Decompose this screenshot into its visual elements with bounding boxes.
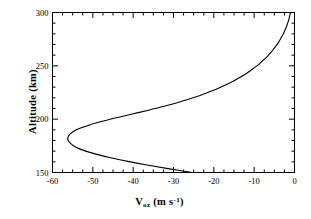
figure-chart-voz-altitude: -60-50-40-30-20-100 150200250300 Altitud… [0,0,311,219]
x-axis-tick-labels: -60-50-40-30-20-100 [47,176,297,186]
x-axis-label: Voz (m s-1) [0,196,311,209]
y-axis-major-ticks [53,13,295,173]
x-tick-label: -50 [87,176,98,186]
x-tick-label: -40 [127,176,138,186]
x-tick-label: -60 [47,176,58,186]
y-axis-minor-ticks [53,23,295,162]
x-axis-major-ticks [53,13,295,173]
x-axis-label-units-open: (m s [150,196,173,207]
y-tick-label: 200 [36,114,49,124]
plot-area-svg: -60-50-40-30-20-100 150200250300 [0,0,311,219]
y-tick-label: 150 [36,168,49,178]
x-tick-label: -30 [168,176,179,186]
data-series-voz [68,13,291,173]
y-axis-tick-labels: 150200250300 [36,8,49,178]
y-tick-label: 250 [36,61,49,71]
x-tick-label: -20 [208,176,219,186]
x-axis-label-symbol: V [135,196,143,207]
plot-frame [53,13,295,173]
y-tick-label: 300 [36,8,49,18]
x-tick-label: -10 [248,176,259,186]
x-tick-label: 0 [292,176,296,186]
y-axis-label: Altitude (km) [27,42,38,162]
x-axis-minor-ticks [63,13,285,173]
x-axis-label-units-close: ) [180,196,184,207]
